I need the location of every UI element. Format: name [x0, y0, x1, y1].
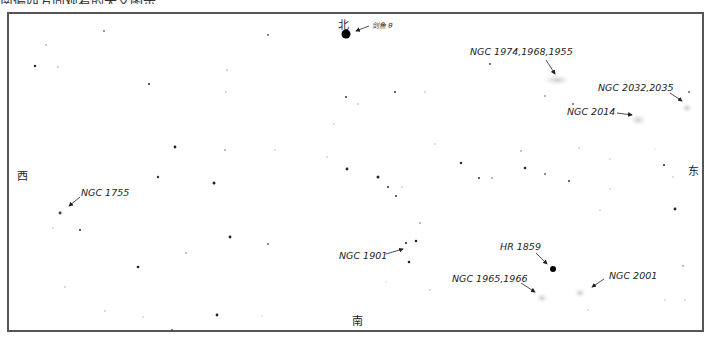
star — [79, 229, 81, 231]
label-dorado-theta: 剑鱼 θ — [372, 22, 393, 30]
star — [174, 146, 177, 149]
star — [345, 96, 347, 98]
label-ngc-1974: NGC 1974,1968,1955 — [470, 46, 573, 57]
star — [672, 176, 673, 177]
star — [520, 150, 522, 152]
star — [682, 265, 684, 267]
star — [142, 316, 144, 318]
annotation-ngc-2014: NGC 2014 — [567, 106, 632, 117]
star — [684, 299, 685, 300]
star — [148, 83, 150, 85]
star — [609, 188, 610, 189]
arrow-ngc-1755 — [69, 197, 80, 206]
star — [568, 180, 570, 182]
star — [385, 281, 386, 282]
nebula-ngc-2032 — [681, 103, 693, 113]
arrow-ngc-1974 — [546, 60, 555, 74]
star-dorado-theta — [342, 30, 351, 39]
star — [57, 66, 59, 68]
annotation-ngc-1965: NGC 1965,1966 — [452, 273, 535, 292]
star — [185, 252, 187, 254]
arrow-ngc-2014 — [617, 113, 632, 115]
star — [524, 167, 527, 170]
star — [137, 266, 140, 269]
star — [52, 227, 54, 229]
star-chart: 北 南 东 西 剑鱼 θ NGC 1974,1968,1955 NGC 2032… — [0, 0, 714, 341]
star — [405, 242, 407, 244]
direction-south: 南 — [352, 315, 363, 328]
star — [171, 329, 173, 331]
nebula-ngc-1974 — [543, 74, 571, 86]
star-hr-1859 — [550, 266, 556, 272]
star — [157, 176, 159, 178]
star — [599, 209, 601, 211]
label-ngc-2014: NGC 2014 — [567, 106, 615, 117]
direction-west: 西 — [17, 170, 28, 183]
star — [213, 182, 216, 185]
star — [491, 177, 493, 179]
star — [429, 289, 430, 290]
star — [267, 243, 269, 245]
annotation-ngc-1974: NGC 1974,1968,1955 — [470, 46, 573, 74]
star — [489, 63, 491, 65]
star — [654, 148, 655, 149]
nebula-ngc-1965 — [536, 293, 548, 303]
star — [216, 314, 219, 317]
direction-east: 东 — [688, 165, 699, 178]
arrow-dorado-theta — [356, 26, 369, 31]
star — [544, 173, 546, 175]
label-ngc-2001: NGC 2001 — [609, 270, 657, 281]
star — [226, 69, 228, 71]
nebula-ngc-2001 — [574, 288, 586, 298]
arrow-ngc-1901 — [386, 249, 403, 254]
star — [229, 236, 232, 239]
arrow-ngc-2001 — [592, 279, 604, 287]
star — [572, 103, 574, 105]
star — [357, 103, 358, 104]
annotation-ngc-1901: NGC 1901 — [339, 249, 403, 261]
arrow-ngc-2032 — [670, 93, 682, 101]
star — [34, 65, 36, 67]
star — [578, 147, 580, 149]
star — [261, 315, 262, 316]
star — [346, 168, 349, 171]
annotation-dorado-theta: 剑鱼 θ — [356, 22, 393, 31]
annotation-hr-1859: HR 1859 — [500, 241, 547, 264]
star — [544, 95, 546, 97]
star — [663, 164, 665, 166]
star — [387, 186, 389, 188]
star — [64, 286, 66, 288]
star — [434, 143, 435, 144]
label-ngc-1755: NGC 1755 — [81, 187, 129, 198]
arrow-ngc-1965 — [521, 283, 535, 292]
annotation-ngc-2001: NGC 2001 — [592, 270, 657, 287]
star — [424, 91, 426, 93]
annotation-ngc-2032: NGC 2032,2035 — [598, 82, 682, 101]
label-ngc-1901: NGC 1901 — [339, 250, 387, 261]
star — [664, 299, 665, 300]
star — [333, 123, 334, 124]
star — [377, 176, 380, 179]
label-hr-1859: HR 1859 — [500, 241, 541, 252]
star — [415, 240, 418, 243]
star — [587, 309, 588, 310]
star — [408, 261, 411, 264]
star — [45, 44, 47, 46]
label-ngc-1965: NGC 1965,1966 — [452, 273, 528, 284]
star — [104, 310, 106, 312]
star — [103, 30, 105, 32]
star — [394, 91, 396, 93]
star — [688, 91, 690, 93]
star — [59, 212, 62, 215]
star — [224, 149, 226, 151]
star — [395, 195, 397, 197]
star — [274, 149, 275, 150]
star — [460, 162, 462, 164]
star — [674, 208, 677, 211]
nebula-ngc-2014 — [630, 114, 646, 126]
star — [225, 91, 227, 93]
star — [609, 158, 610, 159]
annotation-ngc-1755: NGC 1755 — [69, 187, 129, 206]
star — [401, 186, 402, 187]
arrow-hr-1859 — [536, 253, 547, 264]
